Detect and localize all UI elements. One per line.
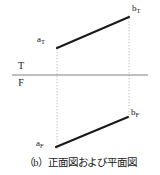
- point-label-a-f: aF: [36, 139, 44, 148]
- point-label-b-t-subscript: T: [137, 7, 141, 14]
- point-label-a-f-subscript: F: [40, 142, 44, 149]
- figure-container: aT bT aF bF T F （b）正面図および平面図: [0, 0, 160, 175]
- point-label-b-f-base: b: [131, 107, 136, 117]
- point-label-b-t-base: b: [132, 3, 137, 13]
- point-label-b-t: bT: [132, 4, 140, 13]
- top-view-segment-ab: [57, 17, 129, 48]
- front-view-segment-ab: [56, 117, 128, 147]
- point-label-b-f-subscript: F: [136, 111, 140, 118]
- reference-line-label-top: T: [14, 61, 28, 71]
- point-label-a-t: aT: [37, 35, 45, 44]
- reference-line-label-front: F: [14, 78, 28, 88]
- figure-caption: （b）正面図および平面図: [0, 157, 160, 169]
- point-label-a-t-subscript: T: [41, 38, 45, 45]
- point-label-b-f: bF: [131, 108, 139, 117]
